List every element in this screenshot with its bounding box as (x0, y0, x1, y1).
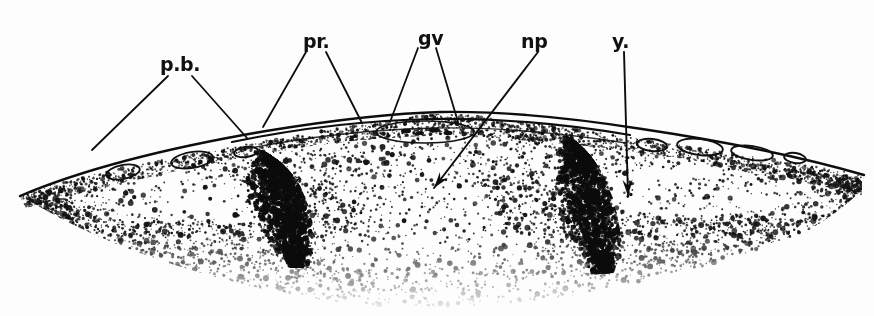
label-gv: gv (418, 29, 443, 48)
label-np: np (521, 32, 547, 51)
label-pb: p.b. (160, 55, 200, 74)
label-pr: pr. (303, 32, 329, 51)
figure-container: ••• (0, 0, 874, 316)
label-y: y. (612, 32, 629, 51)
